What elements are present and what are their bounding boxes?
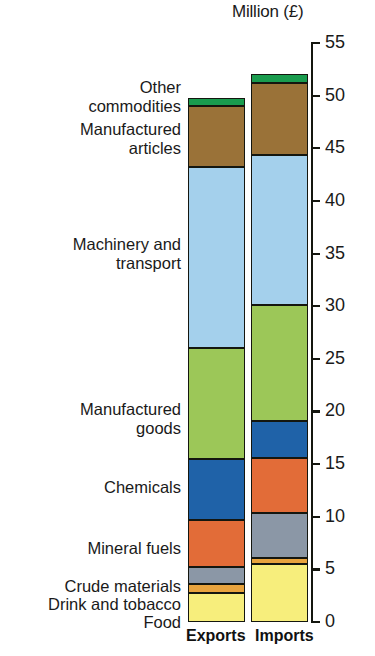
category-label-manufactured-goods: Manufactured goods (80, 400, 181, 438)
y-tick-label-0: 0 (325, 611, 335, 632)
y-tick-label-30: 30 (325, 295, 345, 316)
y-tick-label-15: 15 (325, 453, 345, 474)
category-label-crude-materials: Crude materials (65, 577, 181, 596)
bar-segment-other-commodities[interactable] (188, 98, 245, 106)
category-label-mineral-fuels: Mineral fuels (87, 539, 181, 558)
y-axis-line (311, 43, 313, 623)
bar-exports[interactable] (188, 43, 245, 622)
y-tick-label-20: 20 (325, 400, 345, 421)
bar-segment-manufactured-goods[interactable] (251, 305, 308, 421)
y-tick-label-25: 25 (325, 348, 345, 369)
y-tick-mark-45 (311, 147, 320, 149)
bar-segment-food[interactable] (251, 564, 308, 622)
category-label-chemicals: Chemicals (104, 478, 181, 497)
bar-segment-food[interactable] (188, 593, 245, 622)
chart-title: Million (£) (232, 2, 303, 22)
category-label-drink-and-tobacco: Drink and tobacco (48, 595, 181, 614)
y-tick-label-50: 50 (325, 85, 345, 106)
y-tick-mark-50 (311, 95, 320, 97)
bar-imports[interactable] (251, 43, 308, 622)
x-axis-label-exports: Exports (186, 627, 246, 645)
y-tick-mark-25 (311, 358, 320, 360)
stacked-bar-chart: Million (£) 0510152025303540455055 Other… (0, 0, 375, 656)
bar-segment-chemicals[interactable] (188, 459, 245, 520)
category-label-other-commodities: Other commodities (88, 78, 181, 116)
bar-segment-chemicals[interactable] (251, 421, 308, 458)
y-tick-label-35: 35 (325, 243, 345, 264)
bar-segment-machinery-and-transport[interactable] (188, 167, 245, 348)
bar-segment-mineral-fuels[interactable] (188, 520, 245, 567)
y-tick-mark-10 (311, 516, 320, 518)
y-tick-mark-5 (311, 568, 320, 570)
y-tick-mark-40 (311, 200, 320, 202)
y-tick-mark-15 (311, 463, 320, 465)
y-tick-label-5: 5 (325, 558, 335, 579)
category-label-food: Food (143, 613, 181, 632)
plot-area (188, 43, 311, 622)
y-tick-label-10: 10 (325, 506, 345, 527)
category-label-manufactured-articles: Manufactured articles (80, 120, 181, 158)
x-axis-label-imports: Imports (255, 627, 314, 645)
y-tick-label-55: 55 (325, 32, 345, 53)
bar-segment-manufactured-articles[interactable] (251, 83, 308, 155)
y-tick-mark-55 (311, 42, 320, 44)
category-label-machinery-and-transport: Machinery and transport (73, 235, 181, 273)
y-tick-mark-0 (311, 621, 320, 623)
bar-segment-mineral-fuels[interactable] (251, 458, 308, 513)
y-tick-mark-30 (311, 305, 320, 307)
y-tick-mark-35 (311, 253, 320, 255)
bar-segment-machinery-and-transport[interactable] (251, 155, 308, 306)
y-tick-label-45: 45 (325, 137, 345, 158)
y-tick-label-40: 40 (325, 190, 345, 211)
y-tick-mark-20 (311, 410, 320, 412)
bar-segment-manufactured-goods[interactable] (188, 348, 245, 459)
bar-segment-drink-and-tobacco[interactable] (251, 558, 308, 564)
bar-segment-crude-materials[interactable] (251, 513, 308, 558)
bar-segment-manufactured-articles[interactable] (188, 106, 245, 167)
bar-segment-crude-materials[interactable] (188, 567, 245, 584)
bar-segment-drink-and-tobacco[interactable] (188, 584, 245, 592)
bar-segment-other-commodities[interactable] (251, 74, 308, 83)
